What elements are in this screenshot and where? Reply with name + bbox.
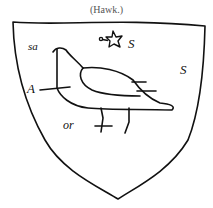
tincture-label-argent: A [27, 81, 35, 97]
tincture-label-field: S [180, 62, 187, 78]
shield-drawing [0, 0, 213, 208]
tincture-label-or: or [63, 118, 74, 133]
mullet-star-icon [99, 31, 122, 47]
tincture-label-star: S [128, 36, 135, 52]
tincture-label-sable: sa [28, 40, 38, 52]
shield-outline-icon [13, 22, 205, 199]
hawk-icon [40, 48, 173, 133]
